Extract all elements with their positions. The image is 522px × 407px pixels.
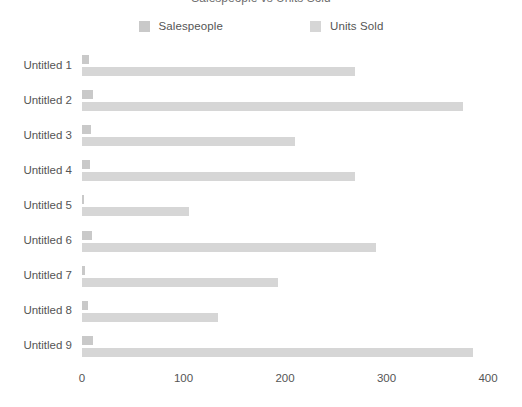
category-label: Untitled 4 bbox=[0, 164, 72, 176]
bar-group: Untitled 7 bbox=[0, 259, 522, 294]
bar-units-sold[interactable] bbox=[82, 137, 295, 146]
bar-units-sold[interactable] bbox=[82, 102, 463, 111]
bar-salespeople[interactable] bbox=[82, 195, 84, 204]
bar-salespeople[interactable] bbox=[82, 301, 88, 310]
bar-group: Untitled 1 bbox=[0, 48, 522, 83]
bar-chart: Salespeople vs Units Sold Salespeople Un… bbox=[0, 0, 522, 407]
plot-area: Untitled 1Untitled 2Untitled 3Untitled 4… bbox=[0, 48, 522, 364]
bar-group: Untitled 9 bbox=[0, 329, 522, 364]
category-label: Untitled 6 bbox=[0, 234, 72, 246]
bar-units-sold[interactable] bbox=[82, 207, 189, 216]
bar-units-sold[interactable] bbox=[82, 243, 376, 252]
bar-group: Untitled 4 bbox=[0, 153, 522, 188]
bar-salespeople[interactable] bbox=[82, 160, 90, 169]
legend-swatch-icon bbox=[139, 21, 150, 32]
bar-salespeople[interactable] bbox=[82, 55, 89, 64]
legend-label-units-sold: Units Sold bbox=[330, 20, 383, 32]
bar-salespeople[interactable] bbox=[82, 125, 91, 134]
category-label: Untitled 3 bbox=[0, 129, 72, 141]
category-label: Untitled 5 bbox=[0, 199, 72, 211]
bar-units-sold[interactable] bbox=[82, 172, 355, 181]
bar-units-sold[interactable] bbox=[82, 313, 218, 322]
x-tick-label: 100 bbox=[174, 372, 193, 384]
category-label: Untitled 7 bbox=[0, 269, 72, 281]
bar-salespeople[interactable] bbox=[82, 266, 85, 275]
bar-units-sold[interactable] bbox=[82, 278, 278, 287]
bar-group: Untitled 3 bbox=[0, 118, 522, 153]
legend-item-units-sold[interactable]: Units Sold bbox=[310, 20, 383, 32]
bar-group: Untitled 5 bbox=[0, 188, 522, 223]
x-axis: 0100200300400 bbox=[0, 364, 522, 394]
bar-salespeople[interactable] bbox=[82, 336, 93, 345]
bar-units-sold[interactable] bbox=[82, 67, 355, 76]
category-label: Untitled 1 bbox=[0, 59, 72, 71]
legend-label-salespeople: Salespeople bbox=[159, 20, 223, 32]
bar-salespeople[interactable] bbox=[82, 90, 93, 99]
x-tick-label: 0 bbox=[79, 372, 85, 384]
category-label: Untitled 9 bbox=[0, 339, 72, 351]
bar-group: Untitled 2 bbox=[0, 83, 522, 118]
x-tick-label: 200 bbox=[275, 372, 294, 384]
legend-item-salespeople[interactable]: Salespeople bbox=[139, 20, 223, 32]
chart-title-clipped: Salespeople vs Units Sold bbox=[0, 0, 522, 9]
x-tick-label: 400 bbox=[478, 372, 497, 384]
chart-title: Salespeople vs Units Sold bbox=[0, 0, 522, 5]
x-tick-label: 300 bbox=[377, 372, 396, 384]
chart-legend: Salespeople Units Sold bbox=[0, 17, 522, 35]
bar-units-sold[interactable] bbox=[82, 348, 473, 357]
bar-group: Untitled 6 bbox=[0, 224, 522, 259]
category-label: Untitled 8 bbox=[0, 304, 72, 316]
category-label: Untitled 2 bbox=[0, 94, 72, 106]
bar-group: Untitled 8 bbox=[0, 294, 522, 329]
legend-swatch-icon bbox=[310, 21, 321, 32]
bar-salespeople[interactable] bbox=[82, 231, 92, 240]
